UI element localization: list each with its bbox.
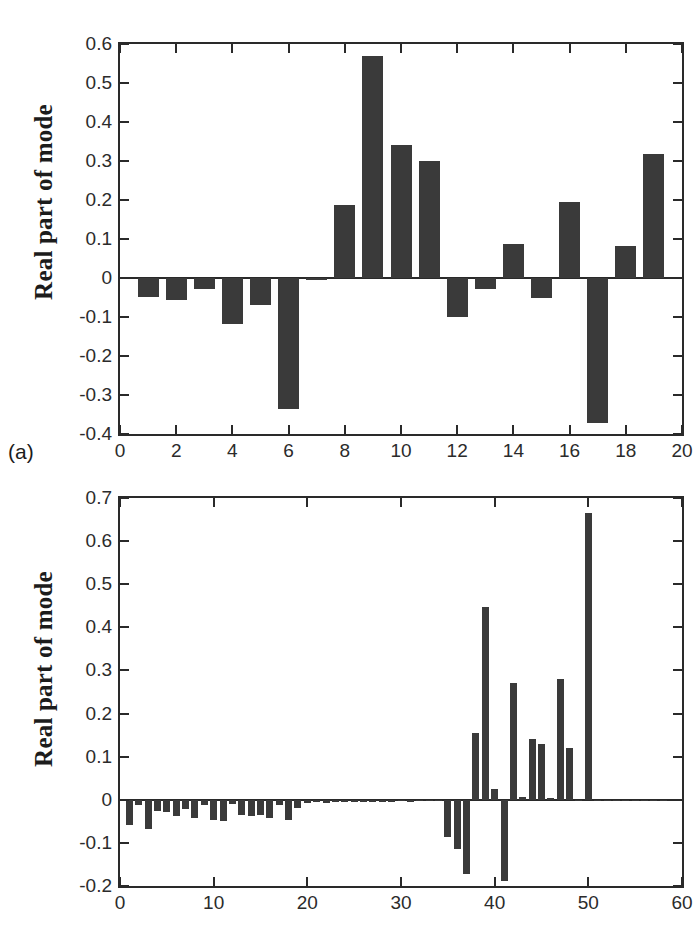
bar (276, 800, 283, 805)
bar (604, 800, 611, 801)
x-tick-label: 60 (671, 892, 692, 914)
bar (391, 145, 412, 278)
bar (475, 278, 496, 289)
y-tick (120, 583, 129, 585)
y-tick-label: -0.1 (79, 306, 112, 328)
bar (163, 800, 170, 812)
y-tick-right (673, 199, 682, 201)
y-tick (120, 713, 129, 715)
x-tick-label: 0 (115, 892, 126, 914)
bar (416, 800, 423, 802)
plot-area-b: -0.2-0.100.10.20.30.40.50.60.70102030405… (118, 496, 684, 888)
x-tick (569, 425, 571, 434)
y-axis-title-b: Real part of mode (30, 509, 58, 829)
bar (660, 800, 667, 801)
y-tick (120, 160, 129, 162)
y-tick-right (673, 756, 682, 758)
y-tick-label: 0.7 (86, 487, 112, 509)
bar (538, 744, 545, 800)
bar (557, 679, 564, 799)
bar (250, 278, 271, 305)
bar (341, 800, 348, 802)
y-tick-right (673, 669, 682, 671)
x-tick-top (512, 44, 514, 53)
x-tick (119, 425, 121, 434)
y-tick-label: -0.2 (79, 875, 112, 897)
bar (229, 800, 236, 804)
bar (472, 733, 479, 800)
bar (285, 800, 292, 821)
bar (587, 278, 608, 423)
bar (454, 800, 461, 850)
x-tick (119, 877, 121, 886)
y-tick (120, 540, 129, 542)
x-tick (625, 425, 627, 434)
bar (491, 789, 498, 799)
bar (313, 800, 320, 803)
bar (503, 244, 524, 278)
bar (559, 202, 580, 278)
x-tick (231, 425, 233, 434)
bar (447, 278, 468, 317)
bar (398, 800, 405, 802)
bar (220, 800, 227, 822)
y-tick (120, 799, 129, 801)
y-tick-right (673, 626, 682, 628)
bar (138, 278, 159, 297)
x-tick-label: 8 (340, 440, 351, 462)
bar (257, 800, 264, 816)
y-tick (120, 756, 129, 758)
x-tick-top (400, 44, 402, 53)
y-tick (120, 394, 129, 396)
bar (501, 800, 508, 881)
bar (531, 278, 552, 298)
y-tick-label: 0.3 (86, 150, 112, 172)
bar (379, 800, 386, 802)
x-tick (587, 877, 589, 886)
y-tick-right (673, 799, 682, 801)
y-tick (120, 669, 129, 671)
plot-area-a: -0.4-0.3-0.2-0.100.10.20.30.40.50.602468… (118, 42, 684, 436)
y-tick-label: -0.2 (79, 345, 112, 367)
bar (575, 800, 582, 801)
y-tick-right (673, 394, 682, 396)
y-tick (120, 277, 129, 279)
y-tick (120, 316, 129, 318)
x-tick (288, 425, 290, 434)
bars-container-a (120, 44, 682, 434)
panel-a: Real part of mode -0.4-0.3-0.2-0.100.10.… (0, 0, 699, 470)
y-tick (120, 626, 129, 628)
y-tick-right (673, 238, 682, 240)
bar (304, 800, 311, 803)
x-tick (175, 425, 177, 434)
bar (182, 800, 189, 809)
bar (650, 800, 657, 801)
y-tick (120, 433, 129, 435)
y-tick-right (673, 82, 682, 84)
bar (632, 800, 639, 801)
bar (360, 800, 367, 802)
bar (613, 800, 620, 801)
x-tick-label: 6 (283, 440, 294, 462)
bar (566, 748, 573, 799)
y-tick-right (673, 160, 682, 162)
bar (622, 800, 629, 801)
x-tick-label: 10 (390, 440, 411, 462)
y-tick (120, 842, 129, 844)
x-tick-top (587, 498, 589, 507)
x-tick-label: 20 (297, 892, 318, 914)
bar (145, 800, 152, 829)
y-tick-right (673, 842, 682, 844)
bar (529, 739, 536, 800)
bar (135, 800, 142, 805)
y-tick (120, 497, 129, 499)
x-tick-label: 40 (484, 892, 505, 914)
bar (615, 246, 636, 278)
x-tick-top (569, 44, 571, 53)
bar (641, 800, 648, 801)
x-tick-top (119, 44, 121, 53)
bar (362, 56, 383, 278)
x-tick-label: 30 (390, 892, 411, 914)
x-tick-top (213, 498, 215, 507)
y-tick-label: 0.4 (86, 111, 112, 133)
